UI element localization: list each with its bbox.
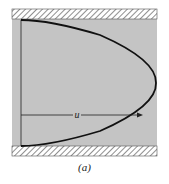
fluid-region xyxy=(12,19,157,146)
velocity-label: u xyxy=(75,109,80,120)
bottom-wall xyxy=(12,146,157,156)
top-wall xyxy=(12,9,157,19)
velocity-profile-diagram: u xyxy=(0,0,169,184)
figure-caption: (a) xyxy=(0,161,169,173)
